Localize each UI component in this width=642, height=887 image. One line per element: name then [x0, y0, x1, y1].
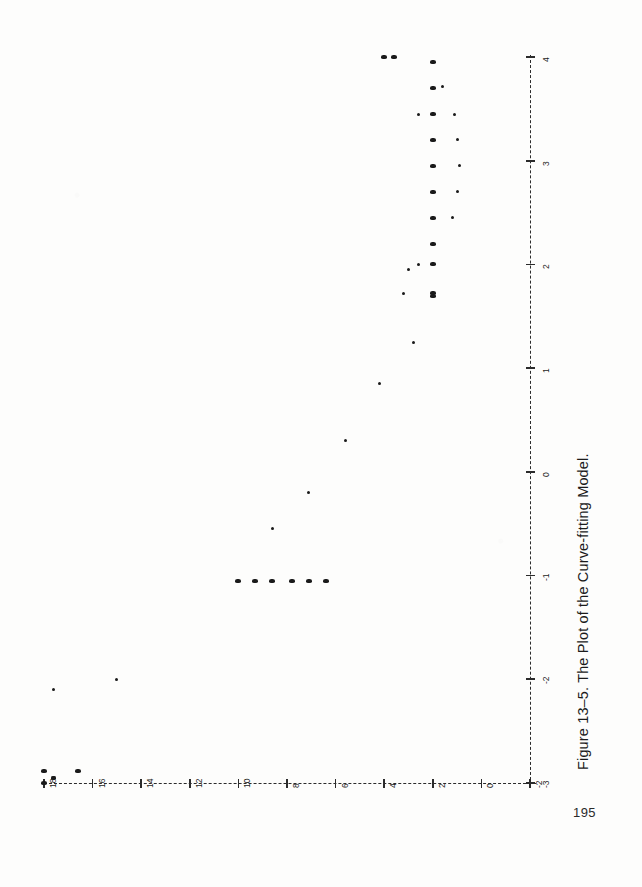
- x-axis-tick: [432, 779, 434, 788]
- y-axis-tick: [526, 575, 535, 577]
- data-point: [430, 242, 436, 246]
- x-axis-dashed-line: [44, 783, 536, 784]
- x-axis-tick: [140, 779, 142, 788]
- data-point: [430, 60, 436, 64]
- data-point: [52, 688, 55, 691]
- y-axis-tick-label: 4: [541, 57, 551, 62]
- y-axis-tick-label: -1: [541, 573, 551, 581]
- x-axis-tick: [383, 779, 385, 788]
- x-axis-tick-label: 18: [48, 779, 58, 788]
- y-axis-tick: [526, 678, 535, 680]
- y-axis-tick-label: -3: [541, 780, 551, 788]
- data-point: [407, 268, 410, 271]
- data-point: [306, 579, 312, 583]
- x-axis-tick: [238, 779, 240, 788]
- x-axis-tick: [286, 779, 288, 788]
- x-axis-tick-label: 0: [485, 783, 495, 788]
- data-point: [391, 55, 397, 59]
- y-axis-tick: [526, 367, 535, 369]
- data-point: [456, 138, 459, 141]
- x-axis-tick-label: 14: [145, 779, 155, 788]
- x-axis-tick-label: 16: [97, 779, 107, 788]
- data-point: [430, 138, 436, 142]
- data-point: [75, 769, 81, 773]
- x-axis-tick-label: 4: [388, 783, 398, 788]
- y-axis-tick-label: 0: [541, 472, 551, 477]
- data-point: [453, 113, 456, 116]
- data-point: [344, 439, 347, 442]
- data-point: [458, 164, 461, 167]
- data-point: [441, 85, 444, 88]
- data-point: [430, 190, 436, 194]
- data-point: [430, 164, 436, 168]
- y-axis-tick-label: -2: [541, 677, 551, 685]
- data-point: [430, 216, 436, 220]
- data-point: [417, 263, 420, 266]
- data-point: [252, 579, 258, 583]
- data-point: [378, 382, 381, 385]
- scatter-plot: -2024681012141618-3-2-101234: [0, 0, 642, 887]
- data-point: [402, 292, 405, 295]
- x-axis-tick: [92, 779, 94, 788]
- x-axis-tick: [335, 779, 337, 788]
- data-point: [307, 491, 310, 494]
- x-axis-tick-label: 2: [437, 783, 447, 788]
- y-axis-tick: [526, 782, 535, 784]
- data-point: [430, 112, 436, 116]
- x-axis-tick-label: 10: [242, 779, 252, 788]
- data-point: [41, 769, 47, 773]
- data-point: [115, 678, 118, 681]
- data-point: [41, 781, 47, 785]
- scanned-page: -2024681012141618-3-2-101234 Figure 13–5…: [0, 0, 642, 887]
- data-point: [430, 86, 436, 90]
- data-point: [412, 341, 415, 344]
- y-axis-tick: [526, 471, 535, 473]
- data-point: [417, 113, 420, 116]
- y-axis-tick: [526, 56, 535, 58]
- x-axis-tick-label: 12: [194, 779, 204, 788]
- y-axis-dashed-line: [530, 55, 531, 785]
- data-point: [451, 216, 454, 219]
- data-point: [456, 190, 459, 193]
- data-point: [323, 579, 329, 583]
- y-axis-tick: [526, 264, 535, 266]
- data-point: [381, 55, 387, 59]
- figure-caption: Figure 13–5. The Plot of the Curve-fitti…: [575, 453, 591, 770]
- data-point: [271, 527, 274, 530]
- x-axis-tick: [481, 779, 483, 788]
- x-axis-tick-label: 6: [340, 783, 350, 788]
- data-point: [269, 579, 275, 583]
- data-point: [51, 776, 56, 780]
- data-point: [289, 579, 295, 583]
- y-axis-tick-label: 1: [541, 368, 551, 373]
- x-axis-tick: [189, 779, 191, 788]
- y-axis-tick: [526, 160, 535, 162]
- y-axis-tick-label: 2: [541, 265, 551, 270]
- data-point: [430, 262, 436, 266]
- y-axis-tick-label: 3: [541, 161, 551, 166]
- data-point: [235, 579, 241, 583]
- x-axis-tick-label: 8: [291, 783, 301, 788]
- page-number: 195: [573, 805, 596, 820]
